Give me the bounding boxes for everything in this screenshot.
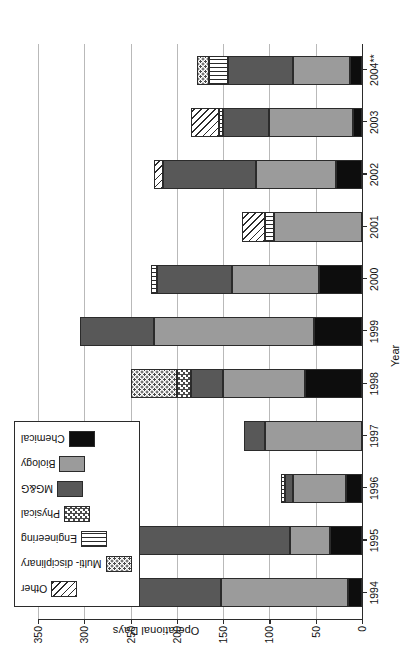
x-tick-label: 2000 xyxy=(368,268,380,291)
legend-item-biology[interactable]: Biology xyxy=(21,456,85,472)
bar-segment-chemical[interactable] xyxy=(346,474,362,503)
bar-segment-mgg[interactable] xyxy=(191,369,223,398)
legend-swatch-biology xyxy=(59,456,85,472)
bar-segment-chemical[interactable] xyxy=(336,160,362,189)
bar-segment-biology[interactable] xyxy=(293,474,347,503)
bar-segment-mgg[interactable] xyxy=(285,474,292,503)
bar-segment-engineering[interactable] xyxy=(151,265,157,294)
bar-2002[interactable] xyxy=(38,160,362,189)
bar-segment-chemical[interactable] xyxy=(305,369,362,398)
y-tick-label: 200 xyxy=(171,626,183,666)
bar-1999[interactable] xyxy=(38,317,362,346)
legend-label: Chemical xyxy=(21,434,65,445)
y-tick-label: 50 xyxy=(310,626,322,666)
bar-2004[interactable] xyxy=(38,56,362,85)
legend-swatch-engineering xyxy=(81,531,107,547)
y-tick-mark xyxy=(223,619,224,624)
bar-segment-engineering[interactable] xyxy=(281,474,285,503)
bar-segment-chemical[interactable] xyxy=(353,108,362,137)
bar-segment-biology[interactable] xyxy=(293,56,350,85)
bar-segment-engineering[interactable] xyxy=(209,56,228,85)
x-tick-label: 2003 xyxy=(368,111,380,134)
legend-swatch-chemical xyxy=(69,431,95,447)
legend-label: Physical xyxy=(21,509,60,520)
legend-swatch-multi xyxy=(106,556,132,572)
bar-segment-other[interactable] xyxy=(242,212,265,241)
bar-segment-multi[interactable] xyxy=(197,56,209,85)
legend-label: Other xyxy=(21,584,47,595)
x-axis-title: Year xyxy=(389,345,401,367)
bar-segment-other[interactable] xyxy=(154,160,163,189)
x-tick-label: 1996 xyxy=(368,477,380,500)
bar-segment-chemical[interactable] xyxy=(350,56,362,85)
legend-item-multi[interactable]: Multi- disciplinary xyxy=(21,556,132,572)
legend-swatch-physical xyxy=(64,506,90,522)
bar-segment-engineering[interactable] xyxy=(265,212,274,241)
bar-segment-chemical[interactable] xyxy=(319,265,363,294)
bar-segment-biology[interactable] xyxy=(274,212,362,241)
y-tick-label: 150 xyxy=(217,626,229,666)
y-tick-mark xyxy=(316,619,317,624)
bar-2003[interactable] xyxy=(38,108,362,137)
x-tick-label: 2001 xyxy=(368,215,380,238)
legend-item-mgg[interactable]: MG&G xyxy=(21,481,83,497)
y-axis-title: Operational Days xyxy=(76,625,236,637)
chart-canvas: Operational Days Year 050100150200250300… xyxy=(0,0,403,667)
bar-1998[interactable] xyxy=(38,369,362,398)
x-tick-mark xyxy=(362,330,367,331)
x-tick-mark xyxy=(362,69,367,70)
bar-segment-other[interactable] xyxy=(191,108,219,137)
y-tick-mark xyxy=(131,619,132,624)
y-tick-mark xyxy=(38,619,39,624)
legend-item-engineering[interactable]: Engineering xyxy=(21,531,107,547)
bar-segment-mgg[interactable] xyxy=(163,160,256,189)
x-tick-label: 2004** xyxy=(368,54,380,86)
bar-segment-mgg[interactable] xyxy=(244,421,265,450)
bar-segment-biology[interactable] xyxy=(269,108,352,137)
bar-segment-biology[interactable] xyxy=(290,526,330,555)
x-tick-label: 1997 xyxy=(368,424,380,447)
y-tick-label: 0 xyxy=(356,626,368,666)
bar-segment-mgg[interactable] xyxy=(223,108,269,137)
chart-legend: OtherMulti- disciplinaryEngineeringPhysi… xyxy=(14,421,140,607)
bar-2000[interactable] xyxy=(38,265,362,294)
bar-segment-biology[interactable] xyxy=(223,369,304,398)
x-tick-mark xyxy=(362,592,367,593)
x-tick-mark xyxy=(362,174,367,175)
x-tick-mark xyxy=(362,226,367,227)
bar-segment-biology[interactable] xyxy=(221,578,348,607)
x-tick-mark xyxy=(362,435,367,436)
x-tick-mark xyxy=(362,121,367,122)
bar-segment-physical[interactable] xyxy=(177,369,191,398)
bar-segment-chemical[interactable] xyxy=(348,578,362,607)
bar-segment-biology[interactable] xyxy=(256,160,337,189)
bar-segment-biology[interactable] xyxy=(154,317,314,346)
bar-segment-engineering[interactable] xyxy=(219,108,224,137)
bar-2001[interactable] xyxy=(38,212,362,241)
bar-segment-biology[interactable] xyxy=(232,265,318,294)
bar-segment-mgg[interactable] xyxy=(157,265,233,294)
legend-item-other[interactable]: Other xyxy=(21,581,77,597)
bar-segment-chemical[interactable] xyxy=(314,317,362,346)
y-tick-label: 100 xyxy=(263,626,275,666)
bar-segment-biology[interactable] xyxy=(265,421,362,450)
legend-label: Biology xyxy=(21,459,55,470)
bar-segment-multi[interactable] xyxy=(131,369,177,398)
y-tick-label: 300 xyxy=(78,626,90,666)
legend-item-chemical[interactable]: Chemical xyxy=(21,431,95,447)
y-tick-mark xyxy=(84,619,85,624)
bar-segment-mgg[interactable] xyxy=(80,317,154,346)
y-tick-mark xyxy=(362,619,363,624)
x-tick-label: 1994 xyxy=(368,581,380,604)
bar-segment-mgg[interactable] xyxy=(228,56,293,85)
chart-figure: Operational Days Year 050100150200250300… xyxy=(0,0,403,667)
y-tick-label: 350 xyxy=(32,626,44,666)
bar-segment-chemical[interactable] xyxy=(330,526,362,555)
x-tick-label: 1999 xyxy=(368,320,380,343)
legend-item-physical[interactable]: Physical xyxy=(21,506,90,522)
legend-label: Multi- disciplinary xyxy=(21,559,102,570)
y-tick-mark xyxy=(177,619,178,624)
x-tick-label: 1995 xyxy=(368,529,380,552)
legend-swatch-mgg xyxy=(57,481,83,497)
x-tick-mark xyxy=(362,383,367,384)
